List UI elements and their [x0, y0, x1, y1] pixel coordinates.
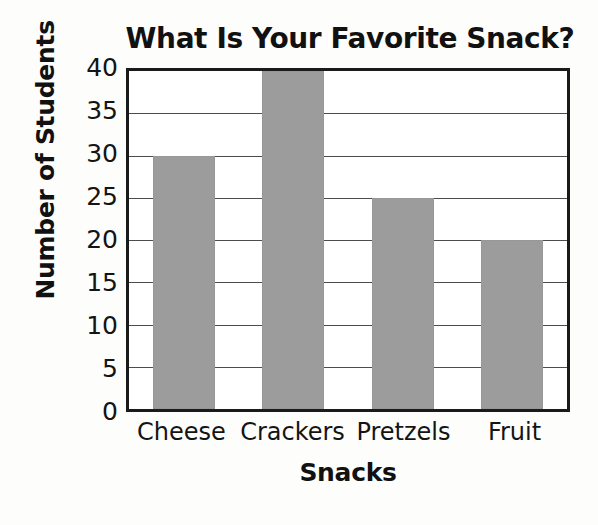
x-axis-title: Snacks — [126, 458, 570, 487]
x-tick-label-fruit: Fruit — [459, 418, 570, 446]
x-tick-label-pretzels: Pretzels — [348, 418, 459, 446]
y-tick-label-5: 5 — [58, 356, 118, 381]
y-tick-label-35: 35 — [58, 98, 118, 123]
x-axis-tick-labels: CheeseCrackersPretzelsFruit — [126, 418, 570, 446]
bar-fruit — [481, 240, 543, 409]
y-tick-label-0: 0 — [58, 399, 118, 424]
bar-pretzels — [372, 198, 434, 409]
bar-slot-fruit — [458, 71, 568, 409]
y-tick-label-25: 25 — [58, 184, 118, 209]
bar-slot-crackers — [239, 71, 349, 409]
bar-cheese — [153, 156, 215, 410]
y-tick-label-10: 10 — [58, 313, 118, 338]
y-axis-tick-labels: 4035302520151050 — [52, 68, 118, 412]
y-tick-label-20: 20 — [58, 227, 118, 252]
bar-series — [129, 71, 567, 409]
x-tick-label-cheese: Cheese — [126, 418, 237, 446]
bar-slot-pretzels — [348, 71, 458, 409]
chart-title: What Is Your Favorite Snack? — [110, 22, 590, 55]
x-tick-label-crackers: Crackers — [237, 418, 348, 446]
bar-slot-cheese — [129, 71, 239, 409]
bar-chart-figure: What Is Your Favorite Snack? Number of S… — [0, 0, 598, 525]
plot-area — [126, 68, 570, 412]
y-tick-label-40: 40 — [58, 55, 118, 80]
y-tick-label-30: 30 — [58, 141, 118, 166]
bar-crackers — [262, 71, 324, 409]
y-tick-label-15: 15 — [58, 270, 118, 295]
